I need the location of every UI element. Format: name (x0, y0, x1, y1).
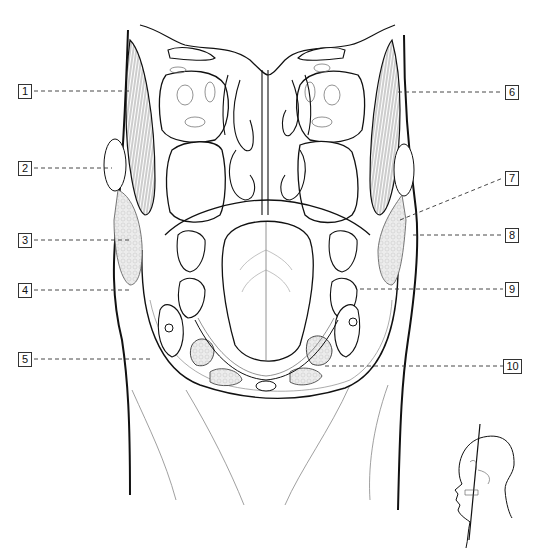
masseter-left (126, 40, 155, 215)
parotid-left (104, 139, 126, 191)
label-5: 5 (18, 352, 32, 367)
label-7: 7 (505, 171, 519, 186)
coronal-section-illustration (0, 0, 537, 557)
diagram-canvas: 1 2 3 4 5 6 7 8 9 10 (0, 0, 537, 557)
label-6: 6 (505, 85, 519, 100)
label-4: 4 (18, 283, 32, 298)
neck-lines (132, 385, 388, 505)
label-1: 1 (18, 84, 32, 99)
maxillary-sinus-left (166, 142, 225, 222)
label-9: 9 (505, 282, 519, 297)
orientation-inset (455, 424, 514, 548)
label-3: 3 (18, 233, 32, 248)
masseter-right (370, 40, 400, 215)
label-8: 8 (505, 228, 519, 243)
parotid-right (394, 144, 414, 196)
label-10: 10 (503, 359, 522, 374)
tongue (222, 221, 313, 361)
label-2: 2 (18, 161, 32, 176)
